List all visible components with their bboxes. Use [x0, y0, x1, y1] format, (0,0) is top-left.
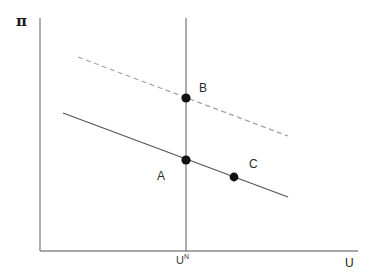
point-c-dot [230, 173, 239, 182]
phillips-curve-figure: π U UN A B C [0, 0, 371, 280]
x-tick-label-base: U [176, 254, 184, 266]
point-c-label: C [249, 158, 258, 170]
x-tick-label-natural-rate: UN [176, 255, 189, 266]
x-tick-label-superscript: N [184, 253, 189, 260]
phillips-curve-solid [63, 113, 288, 197]
point-a-dot [181, 155, 190, 164]
point-b-dot [181, 93, 190, 102]
y-axis-label: π [16, 14, 27, 29]
x-axis-label: U [345, 257, 354, 269]
chart-canvas [0, 0, 371, 280]
point-a-label: A [157, 170, 165, 182]
point-b-label: B [199, 82, 207, 94]
